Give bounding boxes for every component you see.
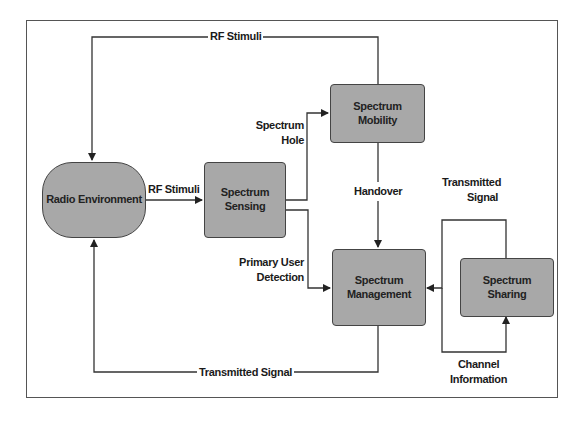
edge-label-channel-information-line2: Information [450, 372, 507, 387]
cognitive-cycle-diagram: Radio Environment Spectrum Sensing Spect… [0, 0, 580, 421]
edge-label-channel-information: Channel Information [450, 357, 507, 387]
node-radio-environment-label: Radio Environment [46, 193, 142, 207]
edge-label-transmitted-signal-bottom: Transmitted Signal [197, 365, 294, 380]
node-spectrum-mobility: Spectrum Mobility [330, 84, 425, 143]
node-spectrum-management-line1: Spectrum [347, 274, 411, 288]
node-spectrum-sharing-line1: Spectrum [483, 274, 531, 288]
node-spectrum-sensing: Spectrum Sensing [204, 162, 286, 238]
edge-label-rf-stimuli-top: RF Stimuli [208, 29, 263, 44]
edge-label-transmitted-signal-right-line1: Transmitted [442, 175, 501, 190]
edge-label-primary-user-detection: Primary User Detection [236, 255, 304, 285]
edge-label-primary-user-line2: Detection [236, 270, 304, 285]
edge-label-rf-stimuli-mid: RF Stimuli [148, 182, 199, 197]
edge-label-spectrum-hole: Spectrum Hole [254, 118, 304, 148]
node-spectrum-management-line2: Management [347, 288, 411, 302]
node-spectrum-sensing-line2: Sensing [221, 200, 269, 214]
edge-label-primary-user-line1: Primary User [236, 255, 304, 270]
edge-label-channel-information-line1: Channel [450, 357, 507, 372]
edge-label-spectrum-hole-line1: Spectrum [254, 118, 304, 133]
edge-label-spectrum-hole-line2: Hole [254, 133, 304, 148]
node-spectrum-sharing: Spectrum Sharing [460, 258, 554, 317]
edge-label-transmitted-signal-right-line2: Signal [442, 190, 501, 205]
node-spectrum-sensing-line1: Spectrum [221, 186, 269, 200]
edge-label-transmitted-signal-right: Transmitted Signal [442, 175, 501, 205]
edge-label-handover: Handover [354, 182, 402, 201]
node-spectrum-sharing-line2: Sharing [483, 288, 531, 302]
node-spectrum-mobility-line2: Mobility [353, 114, 401, 128]
node-spectrum-management: Spectrum Management [332, 249, 426, 326]
node-spectrum-mobility-line1: Spectrum [353, 100, 401, 114]
node-radio-environment: Radio Environment [42, 162, 146, 238]
